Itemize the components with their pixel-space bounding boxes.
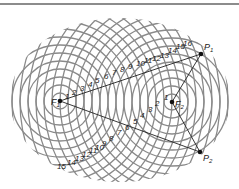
upper-label: 7	[112, 68, 117, 77]
wavefront-circle	[84, 14, 239, 189]
point-label-f2: F2	[175, 99, 185, 110]
interference-diagram: 12345678910111213141516 1234567891011121…	[0, 0, 239, 189]
lower-label: 8	[109, 134, 114, 143]
wavefront-circle	[0, 0, 180, 189]
point-label-p2: P2	[203, 153, 213, 164]
lower-label: 13	[75, 154, 84, 163]
lower-path-labels: 123456789101112131415	[57, 93, 168, 171]
lower-label: 14	[67, 158, 76, 167]
lower-label: 3	[148, 105, 153, 114]
point-label-f1: F1	[51, 97, 60, 108]
lower-label: 5	[133, 117, 138, 126]
lower-label: 15	[57, 162, 66, 171]
upper-label: 2	[71, 88, 77, 97]
lower-label: 4	[140, 111, 145, 120]
lower-label: 7	[117, 128, 122, 137]
upper-label: 3	[80, 84, 85, 93]
lower-label: 1	[164, 93, 168, 102]
upper-label: 16	[183, 39, 192, 48]
upper-label: 5	[95, 76, 100, 85]
point-dot	[199, 52, 204, 57]
point-dot	[198, 150, 203, 155]
upper-label: 4	[88, 80, 93, 89]
wavefront-circle	[0, 21, 140, 181]
lower-label: 6	[125, 123, 130, 132]
lower-label: 2	[154, 99, 160, 108]
upper-label: 9	[128, 62, 133, 71]
upper-label: 1	[65, 92, 69, 101]
upper-label: 6	[104, 72, 109, 81]
point-dot	[170, 100, 175, 105]
point-label-p1: P1	[204, 42, 213, 53]
upper-label: 8	[120, 65, 125, 74]
